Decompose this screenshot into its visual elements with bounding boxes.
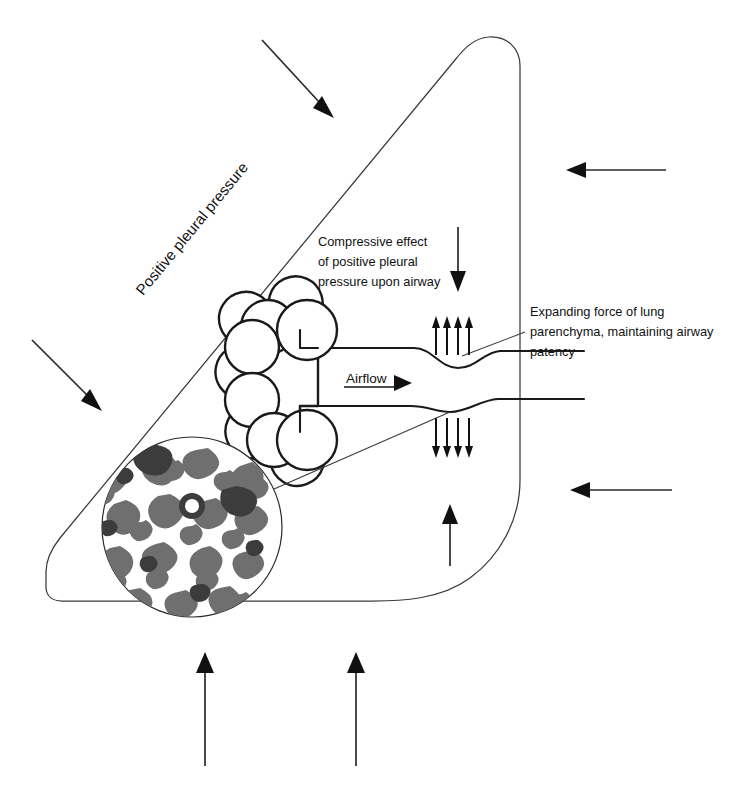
- pleural-pressure-label: Positive pleural pressure: [132, 159, 251, 298]
- alveolar-sac: [277, 300, 337, 360]
- expanding-force-line-1: Expanding force of lung: [530, 304, 664, 319]
- right-upper-arrow-icon: [566, 162, 666, 178]
- bottom-right-arrow-icon: [347, 652, 365, 766]
- alveolar-sac: [225, 320, 279, 374]
- compressive-effect-line-3: pressure upon airway: [318, 274, 441, 289]
- expanding-force-line-2: parenchyma, maintaining airway: [530, 324, 714, 339]
- lung-pleural-pressure-diagram: Positive pleural pressure Compressive ef…: [0, 0, 733, 788]
- pleural-pressure-label-group: Positive pleural pressure: [132, 159, 251, 298]
- interior-upward-arrow-icon: [442, 504, 458, 566]
- lower-expansion-ticks: [432, 418, 473, 458]
- compressive-effect-label-group: Compressive effect of positive pleural p…: [318, 234, 441, 289]
- compression-down-arrow-icon: [450, 227, 466, 292]
- lower-airway: [318, 399, 584, 412]
- external-pressure-arrows: [32, 40, 672, 766]
- alveolar-sac: [277, 410, 337, 470]
- upper-expansion-ticks: [432, 316, 473, 355]
- airflow-label: Airflow: [346, 371, 387, 386]
- left-middle-diagonal-arrow-icon: [32, 340, 102, 411]
- airflow-indicator: Airflow: [344, 371, 412, 391]
- top-left-diagonal-arrow-icon: [262, 40, 334, 118]
- compressive-effect-line-1: Compressive effect: [318, 234, 428, 249]
- diagram-canvas: Positive pleural pressure Compressive ef…: [0, 0, 733, 788]
- compressive-effect-line-2: of positive pleural: [318, 254, 418, 269]
- bottom-left-arrow-icon: [196, 652, 214, 766]
- right-lower-arrow-icon: [570, 482, 672, 498]
